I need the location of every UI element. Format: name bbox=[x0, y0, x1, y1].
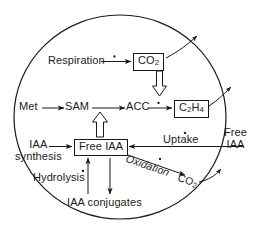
diagram-canvas: Respiration CO2 Met SAM ACC C2H4 IAAsynt… bbox=[0, 0, 254, 236]
node-sam: SAM bbox=[65, 101, 89, 113]
node-acc: ACC bbox=[126, 101, 150, 113]
node-ethylene-c: C bbox=[179, 101, 187, 113]
node-co2-top-subscript: 2 bbox=[155, 58, 160, 67]
node-co2-top-text: CO bbox=[138, 54, 155, 66]
node-co2-top: CO2 bbox=[133, 53, 164, 71]
node-hydrolysis: Hydrolysis bbox=[33, 172, 85, 184]
arrow-ethylene-efflux bbox=[209, 87, 231, 106]
arrow-free-iaa-to-acc-hollow bbox=[93, 112, 108, 137]
node-ethylene: C2H4 bbox=[174, 100, 209, 118]
node-iaa-synthesis-line1: IAA bbox=[29, 138, 47, 150]
dot-marker-oxidation bbox=[159, 158, 161, 160]
node-free-iaa-external-line2: IAA bbox=[227, 138, 245, 150]
arrow-co2-to-ethylene-hollow bbox=[153, 71, 167, 96]
node-free-iaa-external-line1: Free bbox=[224, 126, 247, 138]
node-iaa-synthesis-line2: synthesis bbox=[15, 150, 62, 162]
node-uptake: Uptake bbox=[163, 134, 198, 146]
arrow-co2-efflux bbox=[166, 36, 197, 58]
dot-marker-acc-oxidase bbox=[157, 102, 159, 104]
node-free-iaa-external: FreeIAA bbox=[224, 127, 247, 150]
node-respiration: Respiration bbox=[48, 55, 105, 67]
node-iaa-synthesis: IAAsynthesis bbox=[15, 139, 62, 162]
node-met: Met bbox=[19, 101, 38, 113]
dot-marker-respiration bbox=[113, 55, 115, 57]
node-free-iaa-box: Free IAA bbox=[74, 139, 128, 156]
node-ethylene-h: H bbox=[192, 101, 200, 113]
node-ethylene-sub2: 4 bbox=[200, 105, 205, 114]
node-iaa-conjugates: IAA conjugates bbox=[67, 197, 142, 209]
